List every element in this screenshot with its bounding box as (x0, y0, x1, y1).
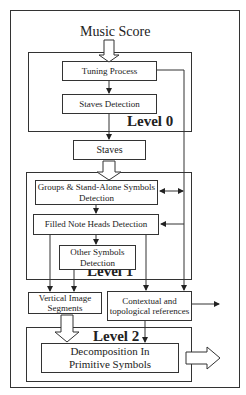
connector-layer (0, 0, 246, 395)
hollow-arrow-staves (97, 161, 121, 180)
hollow-arrow-vertical-segments (55, 315, 79, 342)
hollow-arrow-music-score (99, 40, 119, 62)
hollow-arrow-output (186, 347, 220, 369)
